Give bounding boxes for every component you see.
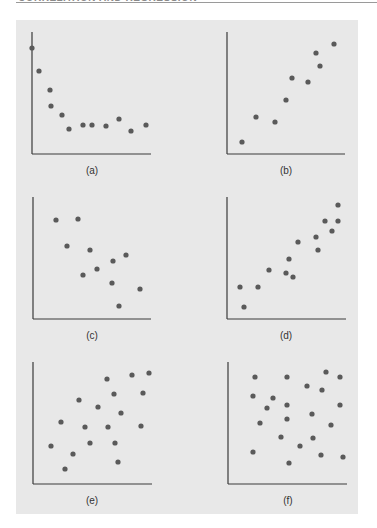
data-point (89, 122, 94, 127)
data-point (278, 434, 283, 439)
data-point (289, 75, 294, 80)
data-point (253, 114, 258, 119)
data-point (146, 370, 151, 375)
data-point (313, 234, 318, 239)
data-point (237, 284, 242, 289)
data-point (319, 387, 324, 392)
data-point (140, 390, 145, 395)
data-point (264, 405, 269, 410)
data-point (112, 440, 117, 445)
data-point (80, 272, 85, 277)
data-point (109, 280, 114, 285)
data-point (286, 460, 291, 465)
data-point (270, 395, 275, 400)
scatter-panel-b: (b) (227, 32, 345, 176)
data-point (138, 423, 143, 428)
panel-label: (d) (280, 330, 292, 341)
data-point (313, 50, 318, 55)
data-point (123, 252, 128, 257)
data-point (111, 391, 116, 396)
data-point (317, 63, 322, 68)
data-point (128, 128, 133, 133)
panel-label: (a) (86, 165, 98, 176)
data-point (286, 256, 291, 261)
data-point (309, 411, 314, 416)
data-point (310, 435, 315, 440)
data-point (48, 103, 53, 108)
data-point (322, 218, 327, 223)
data-point (129, 372, 134, 377)
data-point (76, 397, 81, 402)
data-point (297, 443, 302, 448)
panel-label: (b) (280, 165, 292, 176)
data-point (94, 266, 99, 271)
data-point (252, 374, 257, 379)
data-point (323, 369, 328, 374)
data-point (257, 420, 262, 425)
data-point (328, 422, 333, 427)
data-point (36, 68, 41, 73)
data-point (118, 410, 123, 415)
data-point (29, 45, 34, 50)
panel-label: (e) (86, 495, 98, 506)
data-point (318, 452, 323, 457)
scatter-plot-grid: (a)(b)(c)(d)(e)(f) (0, 0, 377, 528)
data-point (283, 270, 288, 275)
data-point (283, 97, 288, 102)
data-point (272, 119, 277, 124)
data-point (137, 286, 142, 291)
data-point (53, 217, 58, 222)
data-point (284, 416, 289, 421)
data-point (103, 123, 108, 128)
data-point (58, 419, 63, 424)
data-point (64, 243, 69, 248)
data-point (295, 239, 300, 244)
data-point (70, 451, 75, 456)
data-point (116, 116, 121, 121)
data-point (335, 202, 340, 207)
data-point (329, 228, 334, 233)
data-point (66, 126, 71, 131)
panel-label: (c) (86, 330, 98, 341)
data-point (250, 449, 255, 454)
data-point (239, 139, 244, 144)
scatter-panel-a: (a) (29, 32, 151, 176)
data-point (87, 247, 92, 252)
data-point (241, 304, 246, 309)
data-point (284, 402, 289, 407)
panel-label: (f) (283, 495, 292, 506)
data-point (266, 267, 271, 272)
data-point (335, 218, 340, 223)
scatter-panel-f: (f) (228, 362, 347, 506)
data-point (62, 466, 67, 471)
data-point (290, 274, 295, 279)
data-point (115, 459, 120, 464)
data-point (59, 112, 64, 117)
data-point (340, 454, 345, 459)
data-point (80, 122, 85, 127)
data-point (75, 216, 80, 221)
data-point (105, 424, 110, 429)
data-point (331, 41, 336, 46)
data-point (110, 258, 115, 263)
data-point (87, 440, 92, 445)
scatter-panel-d: (d) (227, 197, 346, 341)
scatter-panel-e: (e) (33, 362, 152, 506)
data-point (47, 87, 52, 92)
data-point (304, 383, 309, 388)
data-point (116, 303, 121, 308)
data-point (250, 393, 255, 398)
data-point (95, 404, 100, 409)
data-point (255, 284, 260, 289)
data-point (315, 247, 320, 252)
data-point (337, 402, 342, 407)
data-point (82, 424, 87, 429)
data-point (337, 374, 342, 379)
data-point (284, 374, 289, 379)
scatter-panel-c: (c) (33, 197, 151, 341)
data-point (104, 376, 109, 381)
data-point (48, 443, 53, 448)
data-point (143, 122, 148, 127)
data-point (305, 79, 310, 84)
